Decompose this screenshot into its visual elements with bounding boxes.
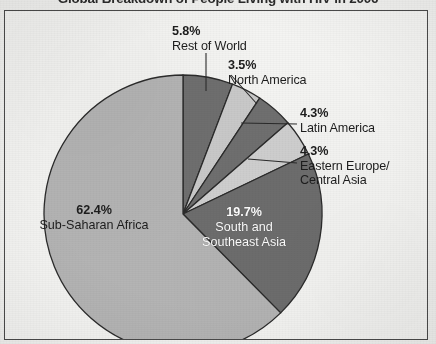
pie-label-south-southeast-asia: 19.7% South and Southeast Asia [184,205,304,250]
pie-label-sub-saharan-africa-name: Sub-Saharan Africa [14,218,174,233]
pie-label-latin-america: 4.3% Latin America [300,106,375,135]
pie-label-south-southeast-asia-name: South and Southeast Asia [184,220,304,250]
pie-label-latin-america-percent: 4.3% [300,106,375,121]
pie-label-eastern-europe: 4.3% Eastern Europe/ Central Asia [300,144,390,188]
chart-title: Global Breakdown of People Living with H… [0,0,436,6]
pie-label-north-america-percent: 3.5% [228,58,307,73]
pie-label-eastern-europe-percent: 4.3% [300,144,390,159]
pie-label-rest-of-world-name: Rest of World [172,39,247,54]
pie-label-rest-of-world: 5.8% Rest of World [172,24,247,53]
pie-label-rest-of-world-percent: 5.8% [172,24,247,39]
pie-label-north-america-name: North America [228,73,307,88]
pie-label-south-southeast-asia-percent: 19.7% [184,205,304,220]
pie-label-sub-saharan-africa: 62.4% Sub-Saharan Africa [14,203,174,233]
pie-label-north-america: 3.5% North America [228,58,307,87]
pie-label-latin-america-name: Latin America [300,121,375,136]
pie-label-sub-saharan-africa-percent: 62.4% [14,203,174,218]
pie-label-eastern-europe-name: Eastern Europe/ Central Asia [300,159,390,188]
